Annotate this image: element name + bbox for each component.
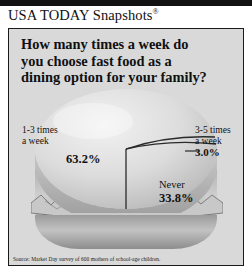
label-3-5-times-line1: 3-5 times — [195, 125, 231, 136]
value-3-5-times: 3.0% — [195, 146, 220, 158]
question-line-2: you choose fast food as a — [21, 53, 233, 70]
question-line-1: How many times a week do — [21, 36, 233, 53]
question-headline: How many times a week do you choose fast… — [21, 36, 233, 86]
usa-today-snapshot: USA TODAY Snapshots® How many times a we… — [0, 0, 252, 274]
label-1-3-times-line2: a week — [22, 136, 58, 147]
registered-mark-icon: ® — [153, 7, 159, 16]
label-1-3-times: 1-3 times a week — [22, 125, 58, 147]
top-black-bar — [0, 0, 252, 6]
label-never: Never — [159, 179, 185, 191]
value-1-3-times: 63.2% — [66, 152, 100, 167]
hamburger-pie-chart: 1-3 times a week 63.2% 3-5 times a week … — [9, 87, 244, 255]
brand-name: USA TODAY Snapshots — [8, 7, 153, 23]
source-note: Source: Market Day survey of 600 mothers… — [13, 256, 161, 262]
brand-title: USA TODAY Snapshots® — [8, 7, 159, 24]
label-1-3-times-line1: 1-3 times — [22, 125, 58, 136]
question-line-3: dining option for your family? — [21, 69, 233, 86]
value-never: 33.8% — [159, 191, 193, 206]
snapshot-panel: How many times a week do you choose fast… — [8, 28, 244, 266]
bun-bottom-rim — [35, 215, 217, 249]
label-3-5-times: 3-5 times a week — [195, 125, 231, 147]
